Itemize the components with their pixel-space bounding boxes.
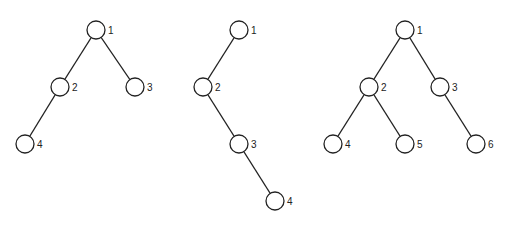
edge-3-4	[244, 152, 270, 194]
node-label: 5	[417, 139, 423, 150]
node-label: 2	[72, 82, 78, 93]
node-1	[230, 21, 248, 39]
node-4	[266, 192, 284, 210]
node-1	[396, 21, 414, 39]
node-3	[431, 78, 449, 96]
edge-1-2	[65, 38, 91, 80]
node-label: 4	[345, 139, 351, 150]
node-3	[126, 78, 144, 96]
node-3	[230, 135, 248, 153]
edge-2-5	[374, 95, 400, 137]
node-label: 1	[251, 25, 257, 36]
node-2	[194, 78, 212, 96]
node-label: 4	[37, 139, 43, 150]
node-1	[87, 21, 105, 39]
edge-1-2	[208, 38, 234, 80]
node-2	[360, 78, 378, 96]
node-label: 2	[215, 82, 221, 93]
node-label: 4	[287, 196, 293, 207]
tree-3: 123456	[324, 21, 494, 153]
node-label: 3	[251, 139, 257, 150]
node-4	[16, 135, 34, 153]
node-5	[396, 135, 414, 153]
tree-2: 1234	[194, 21, 293, 210]
node-label: 3	[452, 82, 458, 93]
edge-2-4	[30, 95, 56, 137]
edge-2-4	[338, 95, 364, 137]
node-label: 6	[488, 139, 494, 150]
node-4	[324, 135, 342, 153]
edge-3-6	[445, 95, 471, 137]
node-label: 3	[147, 82, 153, 93]
tree-1: 1234	[16, 21, 153, 153]
trees-diagram: 12341234123456	[0, 0, 505, 228]
node-label: 1	[417, 25, 423, 36]
node-label: 2	[381, 82, 387, 93]
node-label: 1	[108, 25, 114, 36]
edge-1-3	[101, 37, 130, 79]
edge-2-3	[208, 95, 234, 137]
node-6	[467, 135, 485, 153]
edge-1-2	[374, 38, 400, 80]
node-2	[51, 78, 69, 96]
edge-1-3	[410, 38, 436, 80]
